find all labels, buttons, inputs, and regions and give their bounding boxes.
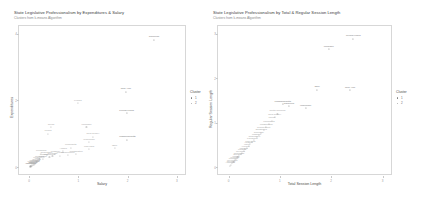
x-tick-mark: [128, 176, 129, 178]
legend-item[interactable]: 2: [396, 101, 407, 105]
data-point-label: Minnesota: [65, 144, 76, 147]
chart-title: State Legislative Professionalism by Exp…: [14, 10, 124, 15]
chart-panel-session-length: State Legislative Professionalism by Tot…: [206, 0, 421, 200]
data-point-label: Louisiana: [36, 150, 47, 153]
data-point-label: Wyoming: [25, 163, 35, 166]
data-point[interactable]: [328, 49, 329, 50]
data-point[interactable]: [127, 139, 128, 140]
data-point-label: Michigan: [324, 46, 334, 49]
y-tick-label: 0: [210, 166, 216, 170]
data-point-label: Massachusetts: [274, 101, 290, 104]
legend-item-label: 1: [401, 96, 403, 100]
data-point[interactable]: [77, 102, 78, 103]
data-point[interactable]: [317, 89, 318, 90]
legend-title: Cluster: [190, 90, 201, 94]
data-point[interactable]: [59, 155, 60, 156]
data-point[interactable]: [288, 106, 289, 107]
chart-subtitle: Clusters from k-means Algorithm: [14, 16, 62, 20]
y-tick-label: 2: [210, 77, 216, 81]
legend-key-icon: [396, 96, 399, 99]
figure-canvas: State Legislative Professionalism by Exp…: [0, 0, 421, 200]
legend-key-icon: [190, 96, 193, 99]
data-point-label: Illinois: [45, 130, 52, 133]
data-point[interactable]: [153, 39, 154, 40]
y-tick-mark: [216, 78, 218, 79]
legend-item-label: 2: [195, 101, 197, 105]
x-axis-label: Total Session Length: [217, 182, 392, 186]
data-point[interactable]: [353, 38, 354, 39]
data-point-label: Pennsylvania: [346, 35, 361, 38]
y-axis-label: Regular Session Length: [209, 90, 213, 128]
data-point[interactable]: [50, 126, 51, 127]
data-point[interactable]: [126, 112, 127, 113]
y-tick-mark: [216, 123, 218, 124]
x-tick-mark: [383, 176, 384, 178]
legend-item[interactable]: 1: [190, 96, 201, 100]
x-tick-mark: [229, 176, 230, 178]
plot-area[interactable]: 01230123PennsylvaniaMichiganNew YorkOhio…: [217, 25, 392, 175]
data-point[interactable]: [125, 91, 126, 92]
legend-key-icon: [396, 102, 399, 105]
legend-item-label: 1: [195, 96, 197, 100]
data-point-label: New Jersey: [87, 133, 100, 136]
data-point-label: Alabama: [225, 162, 235, 165]
x-tick-mark: [177, 176, 178, 178]
data-point-label: Ohio: [112, 145, 117, 148]
y-tick-label: 4: [11, 32, 17, 36]
data-point[interactable]: [88, 142, 89, 143]
x-tick-mark: [78, 176, 79, 178]
data-point-label: Ohio: [314, 86, 319, 89]
data-point-label: California: [149, 36, 159, 39]
chart-subtitle: Clusters from k-means Algorithm: [213, 16, 261, 20]
data-point-label: Florida: [74, 99, 82, 102]
legend-item-label: 2: [401, 101, 403, 105]
y-tick-mark: [216, 167, 218, 168]
legend-item[interactable]: 2: [190, 101, 201, 105]
y-axis-label: Expenditures: [10, 97, 14, 118]
data-point-label: Wisconsin: [300, 105, 311, 108]
x-tick-mark: [331, 176, 332, 178]
legend[interactable]: Cluster 12: [396, 90, 407, 107]
legend-item[interactable]: 1: [396, 96, 407, 100]
data-point[interactable]: [70, 147, 71, 148]
data-point[interactable]: [350, 89, 351, 90]
data-point-label: Maryland: [84, 146, 94, 149]
y-tick-label: 3: [210, 32, 216, 36]
data-point-label: Pennsylvania: [119, 109, 134, 112]
y-tick-mark: [17, 100, 19, 101]
data-point[interactable]: [86, 126, 87, 127]
data-point-label: Michigan: [82, 123, 92, 126]
data-point[interactable]: [229, 165, 230, 166]
y-tick-mark: [17, 167, 19, 168]
data-point[interactable]: [49, 157, 50, 158]
data-point[interactable]: [88, 149, 89, 150]
legend-key-icon: [190, 102, 193, 105]
data-point[interactable]: [67, 154, 68, 155]
y-tick-mark: [216, 34, 218, 35]
data-point-label: Massachusetts: [119, 136, 135, 139]
legend-title: Cluster: [396, 90, 407, 94]
data-point[interactable]: [114, 148, 115, 149]
chart-title: State Legislative Professionalism by Tot…: [213, 10, 340, 15]
legend[interactable]: Cluster 12: [190, 90, 201, 107]
data-point[interactable]: [47, 133, 48, 134]
y-tick-label: 0: [11, 166, 17, 170]
data-point-label: Wisconsin: [83, 139, 94, 142]
data-point-label: New York: [345, 86, 355, 89]
x-tick-mark: [29, 176, 30, 178]
plot-area[interactable]: 0123024CaliforniaNew YorkPennsylvaniaMas…: [18, 25, 186, 175]
data-point[interactable]: [76, 153, 77, 154]
data-point[interactable]: [30, 166, 31, 167]
data-point-label: New York: [121, 88, 131, 91]
chart-panel-expenditures-salary: State Legislative Professionalism by Exp…: [0, 0, 206, 200]
x-tick-mark: [280, 176, 281, 178]
x-axis-label: Salary: [18, 182, 186, 186]
data-point[interactable]: [305, 108, 306, 109]
y-tick-mark: [17, 34, 19, 35]
data-point-label: Texas: [48, 123, 54, 126]
